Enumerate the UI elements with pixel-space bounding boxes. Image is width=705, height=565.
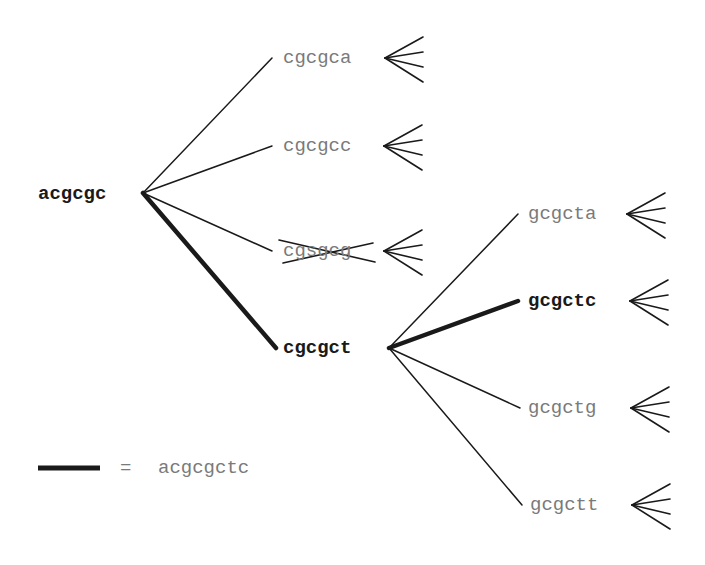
legend-equals: =	[120, 458, 131, 478]
edge-cgcgct-gcgctt	[389, 348, 522, 505]
node-gcgctg: gcgctg	[528, 398, 596, 418]
node-gcgctt: gcgctt	[530, 495, 598, 515]
node-gcgctc: gcgctc	[528, 291, 596, 311]
fan-cgcgcc-3	[384, 146, 422, 170]
legend-value: acgcgctc	[158, 458, 249, 478]
node-cgcgct: cgcgct	[283, 338, 351, 358]
child-fans	[384, 37, 670, 529]
fan-gcgctg-3	[631, 408, 669, 432]
fan-cgsgcg-3	[384, 251, 422, 275]
node-gcgcta: gcgcta	[528, 204, 596, 224]
fan-gcgctt-3	[632, 505, 670, 529]
edge-root-cgsgcg	[143, 193, 272, 251]
tree-diagram	[0, 0, 705, 565]
edge-cgcgct-gcgcta	[389, 214, 518, 348]
edge-cgcgct-gcgctc	[389, 301, 518, 348]
node-cgcgcc: cgcgcc	[283, 136, 351, 156]
node-cgsgcg-pruned: cgsgcg	[283, 241, 351, 261]
fan-cgcgca-3	[385, 58, 423, 82]
tree-edges	[143, 58, 522, 505]
edge-root-cgcgca	[143, 58, 272, 193]
fan-gcgctc-3	[630, 301, 668, 325]
node-cgcgca: cgcgca	[283, 48, 351, 68]
edge-root-cgcgcc	[143, 146, 272, 193]
edge-cgcgct-gcgctg	[389, 348, 520, 408]
node-root: acgcgc	[38, 184, 106, 204]
fan-gcgcta-3	[627, 214, 665, 238]
edge-root-cgcgct	[143, 193, 276, 348]
